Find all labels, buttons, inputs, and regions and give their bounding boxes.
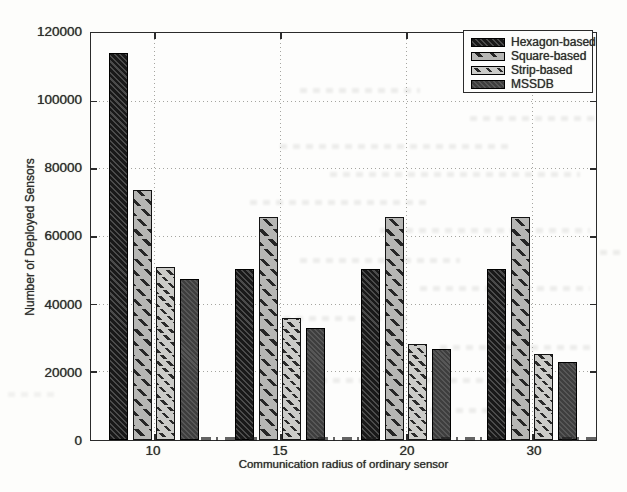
bar-hexagon-15 — [235, 269, 254, 440]
legend-swatch-mssdb-icon — [471, 80, 505, 89]
scan-artifact — [470, 116, 600, 121]
scan-artifact — [562, 437, 596, 441]
x-tick-mark — [406, 33, 408, 39]
scan-artifact — [300, 88, 420, 93]
scan-artifact — [380, 228, 590, 233]
x-tick-mark — [154, 33, 156, 39]
x-tick-mark — [280, 434, 282, 440]
scan-artifact — [600, 250, 624, 255]
bar-square-15 — [259, 217, 278, 440]
y-tick-label-0: 0 — [18, 434, 82, 448]
y-tick-label-80000: 80000 — [18, 161, 82, 175]
y-tick-mark — [91, 371, 97, 373]
x-tick-label-20: 20 — [385, 444, 429, 458]
scan-artifact — [318, 437, 378, 441]
y-tick-mark — [91, 168, 97, 170]
gridline-vertical — [280, 33, 281, 440]
y-tick-mark — [590, 371, 596, 373]
y-tick-mark — [590, 168, 596, 170]
bar-strip-20 — [408, 344, 427, 440]
bar-hexagon-20 — [361, 269, 380, 440]
y-tick-label-40000: 40000 — [18, 298, 82, 312]
bar-mssdb-30 — [558, 362, 577, 440]
y-tick-label-120000: 120000 — [18, 25, 82, 39]
x-tick-label-30: 30 — [512, 444, 556, 458]
bar-hexagon-30 — [487, 269, 506, 440]
legend-label-hexagon: Hexagon-based — [511, 36, 596, 49]
legend-label-square: Square-based — [511, 50, 586, 63]
legend-label-mssdb: MSSDB — [511, 78, 554, 91]
legend-swatch-square-icon — [471, 52, 505, 61]
y-tick-mark — [590, 304, 596, 306]
bar-mssdb-20 — [432, 349, 451, 440]
scan-artifact — [330, 172, 580, 177]
bar-mssdb-15 — [306, 328, 325, 440]
x-tick-mark — [406, 434, 408, 440]
legend-item-hexagon: Hexagon-based — [471, 35, 592, 49]
x-tick-mark — [154, 434, 156, 440]
y-tick-label-20000: 20000 — [18, 366, 82, 380]
y-tick-mark — [91, 304, 97, 306]
gridline-vertical — [532, 33, 533, 440]
bar-square-10 — [133, 190, 152, 440]
legend-swatch-strip-icon — [471, 66, 505, 75]
scan-artifact — [201, 437, 257, 441]
legend: Hexagon-based Square-based Strip-based M… — [463, 30, 593, 93]
bar-strip-15 — [282, 318, 301, 440]
bar-mssdb-10 — [180, 279, 199, 440]
x-tick-mark — [280, 33, 282, 39]
scan-artifact — [280, 144, 510, 149]
scan-artifact — [300, 258, 460, 263]
legend-item-mssdb: MSSDB — [471, 77, 592, 91]
y-tick-mark — [91, 236, 97, 238]
x-tick-label-10: 10 — [131, 444, 175, 458]
legend-label-strip: Strip-based — [511, 64, 572, 77]
gridline-horizontal — [91, 168, 596, 169]
y-tick-mark — [91, 101, 97, 103]
gridline-vertical — [406, 33, 407, 440]
y-tick-label-60000: 60000 — [18, 229, 82, 243]
scan-artifact — [441, 437, 503, 441]
y-tick-mark — [590, 101, 596, 103]
legend-item-square: Square-based — [471, 49, 592, 63]
bar-square-30 — [511, 217, 530, 440]
bar-strip-30 — [534, 354, 553, 440]
x-tick-mark — [532, 434, 534, 440]
scanned-bar-chart-figure: Number of Deployed Sensors 0 20000 40000… — [0, 0, 627, 492]
scan-artifact — [250, 200, 430, 205]
x-axis-label: Communication radius of ordinary sensor — [90, 458, 597, 471]
legend-swatch-hexagon-icon — [471, 38, 505, 47]
bar-strip-10 — [156, 267, 175, 440]
y-tick-label-100000: 100000 — [18, 93, 82, 107]
gridline-vertical — [154, 33, 155, 440]
bar-square-20 — [385, 217, 404, 440]
legend-item-strip: Strip-based — [471, 63, 592, 77]
gridline-horizontal — [91, 101, 596, 102]
x-tick-label-15: 15 — [258, 444, 302, 458]
bar-hexagon-10 — [109, 53, 128, 440]
y-tick-mark — [590, 236, 596, 238]
scan-artifact — [8, 392, 54, 397]
